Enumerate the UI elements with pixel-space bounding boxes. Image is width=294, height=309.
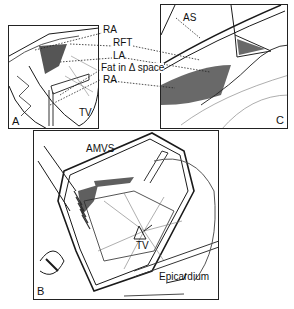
panel-b: AMVS TV Epicardium B: [33, 130, 219, 300]
label-tv-a: TV: [79, 108, 92, 118]
panel-a-letter: A: [12, 116, 19, 127]
label-epicardium: Epicardium: [159, 272, 209, 282]
panel-a: TV A: [8, 25, 99, 129]
panel-c-illustration: [161, 5, 288, 129]
label-ra-top: RA: [103, 25, 117, 35]
panel-b-letter: B: [37, 286, 44, 297]
label-as: AS: [183, 13, 196, 23]
label-fat-in-delta-space: Fat in Δ space: [101, 63, 164, 73]
label-amvs: AMVS: [86, 144, 114, 154]
label-tv-b: TV: [136, 241, 149, 251]
panel-c-letter: C: [276, 115, 284, 126]
label-ra-bottom: RA: [103, 75, 117, 85]
panel-c: AS C: [160, 4, 288, 129]
label-rft: RFT: [113, 38, 132, 48]
label-la: LA: [113, 51, 125, 61]
